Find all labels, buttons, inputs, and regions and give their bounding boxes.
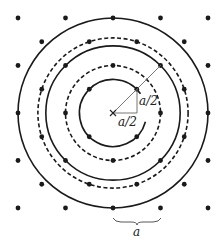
lattice-point bbox=[87, 87, 92, 92]
lattice-point bbox=[182, 134, 187, 139]
lattice-point bbox=[206, 111, 211, 116]
spacing-brace-icon bbox=[113, 218, 161, 225]
vertical-leg-label: a/2 bbox=[139, 94, 158, 108]
lattice-point bbox=[158, 16, 163, 21]
lattice-point bbox=[63, 111, 68, 116]
horizontal-leg-label: a/2 bbox=[118, 115, 137, 129]
lattice-point bbox=[158, 206, 163, 211]
lattice-point bbox=[63, 16, 68, 21]
lattice-point bbox=[111, 206, 116, 211]
lattice-point bbox=[111, 158, 116, 163]
spacing-label: a bbox=[133, 225, 140, 239]
lattice-point bbox=[63, 63, 68, 68]
lattice-point bbox=[158, 111, 163, 116]
lattice-point bbox=[206, 158, 211, 163]
lattice-point bbox=[111, 16, 116, 21]
lattice-point bbox=[206, 16, 211, 21]
lattice-point bbox=[39, 39, 44, 44]
lattice-point bbox=[63, 158, 68, 163]
diagram-svg: a/2 a/2 a bbox=[0, 0, 224, 242]
lattice-point bbox=[182, 39, 187, 44]
lattice-point bbox=[16, 63, 21, 68]
lattice-point bbox=[39, 134, 44, 139]
annotations: a/2 a/2 a bbox=[110, 65, 161, 239]
lattice-point bbox=[16, 16, 21, 21]
lattice-point bbox=[158, 158, 163, 163]
lattice-point bbox=[134, 39, 139, 44]
lattice-point bbox=[87, 182, 92, 187]
lattice-point bbox=[39, 87, 44, 92]
lattice-point bbox=[206, 206, 211, 211]
lattice-point bbox=[134, 182, 139, 187]
lattice-point bbox=[39, 182, 44, 187]
lattice-point bbox=[134, 134, 139, 139]
lattice-point bbox=[182, 87, 187, 92]
lattice-point bbox=[63, 206, 68, 211]
lattice-point bbox=[182, 182, 187, 187]
lattice-point bbox=[87, 134, 92, 139]
lattice-point bbox=[16, 158, 21, 163]
lattice-point bbox=[16, 111, 21, 116]
lattice-diagram: a/2 a/2 a bbox=[0, 0, 224, 242]
lattice-point bbox=[87, 39, 92, 44]
lattice-point bbox=[111, 63, 116, 68]
lattice-point bbox=[206, 63, 211, 68]
lattice-point bbox=[16, 206, 21, 211]
